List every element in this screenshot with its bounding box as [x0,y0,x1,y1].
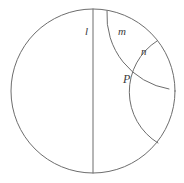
poincare-disk-figure: l m n P [0,0,184,183]
label-point-p: P [123,73,130,85]
label-line-l: l [85,26,88,37]
label-line-m: m [118,26,126,37]
figure-canvas [0,0,184,183]
label-line-n: n [141,46,147,57]
